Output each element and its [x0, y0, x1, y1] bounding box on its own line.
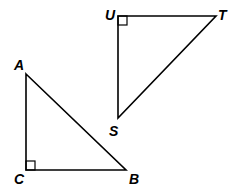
vertex-label-a: A: [13, 57, 24, 73]
diagram-canvas: A C B U T S: [0, 0, 235, 191]
triangle-abc: A C B: [13, 57, 139, 187]
triangle-ust: U T S: [105, 7, 228, 139]
right-angle-marker-c: [26, 161, 35, 170]
vertex-label-c: C: [14, 171, 25, 187]
vertex-label-t: T: [218, 7, 228, 23]
vertex-label-b: B: [129, 171, 139, 187]
triangle-ust-outline: [118, 16, 216, 118]
triangle-abc-outline: [26, 74, 126, 170]
vertex-label-u: U: [105, 7, 116, 23]
vertex-label-s: S: [109, 123, 119, 139]
right-angle-marker-u: [118, 16, 127, 25]
